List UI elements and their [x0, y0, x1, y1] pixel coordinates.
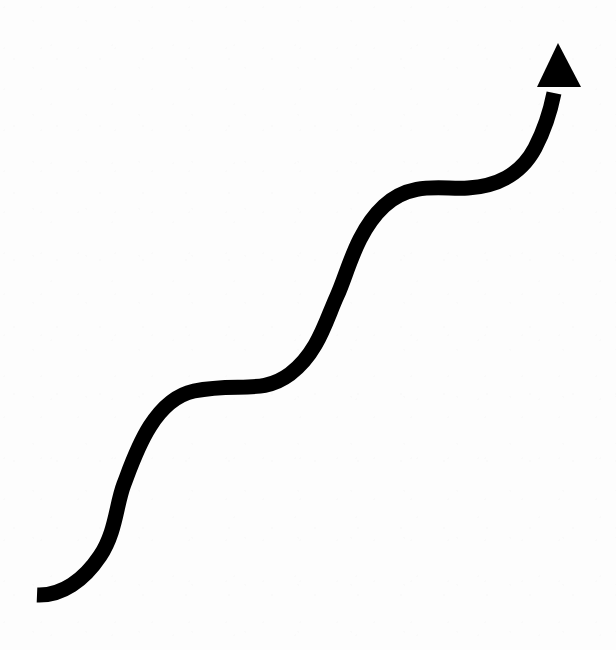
- wavy-rising-line: [37, 93, 554, 595]
- wavy-arrow-illustration: Upward wavy arrow A thick black hand-dra…: [0, 0, 616, 650]
- arrow-head-icon: [537, 43, 581, 87]
- image-canvas: Upward wavy arrow A thick black hand-dra…: [0, 0, 616, 650]
